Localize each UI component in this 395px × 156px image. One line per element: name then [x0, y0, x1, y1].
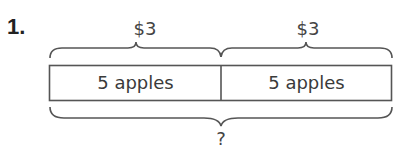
total-label: ?: [201, 128, 241, 149]
tape-cell-right: 5 apples: [221, 66, 392, 100]
brace-top-right: [221, 42, 392, 58]
tape-cell-left: 5 apples: [50, 66, 221, 100]
brace-top-left: [50, 42, 221, 58]
brace-bottom: [50, 107, 392, 126]
